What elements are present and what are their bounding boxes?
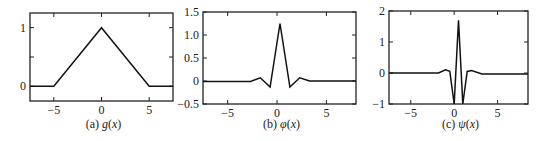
figure: −50501(a) g(x) −505−0.500.51.01.5(b) φ(x… bbox=[0, 0, 552, 141]
plot-frame bbox=[30, 13, 173, 101]
panel-c: −505−1012(c) ψ(x) bbox=[372, 4, 528, 131]
panel-caption: (a) g(x) bbox=[86, 117, 122, 131]
y-tick-label: 0 bbox=[20, 79, 26, 93]
series-line-c bbox=[389, 20, 528, 104]
x-tick-label: −5 bbox=[47, 103, 60, 117]
y-tick-label: −0.5 bbox=[177, 97, 199, 111]
y-tick-label: 1 bbox=[379, 35, 385, 49]
x-tick-label: 0 bbox=[99, 103, 105, 117]
y-tick-label: 1.5 bbox=[184, 5, 199, 19]
x-tick-label: −5 bbox=[404, 106, 417, 120]
y-tick-label: 2 bbox=[379, 4, 385, 18]
caption-paren-close: ) bbox=[296, 117, 300, 131]
x-tick-label: 5 bbox=[323, 106, 329, 120]
panel-a: −50501(a) g(x) bbox=[20, 13, 173, 131]
caption-prefix: (c) bbox=[442, 117, 458, 131]
y-tick-label: 0 bbox=[193, 74, 199, 88]
caption-paren-close: ) bbox=[117, 117, 121, 131]
series-line-a bbox=[30, 28, 173, 87]
series-line-b bbox=[203, 24, 356, 88]
caption-paren-close: ) bbox=[475, 117, 479, 131]
y-tick-label: 0 bbox=[379, 66, 385, 80]
x-tick-label: 5 bbox=[495, 106, 501, 120]
y-tick-label: 1.0 bbox=[184, 28, 199, 42]
panel-caption: (b) φ(x) bbox=[263, 117, 300, 131]
x-tick-label: −5 bbox=[221, 106, 234, 120]
x-tick-label: 5 bbox=[146, 103, 152, 117]
y-tick-label: 1 bbox=[20, 21, 26, 35]
y-tick-label: −1 bbox=[372, 97, 385, 111]
caption-prefix: (b) bbox=[263, 117, 280, 131]
panel-caption: (c) ψ(x) bbox=[442, 117, 479, 131]
panel-b: −505−0.500.51.01.5(b) φ(x) bbox=[177, 5, 356, 131]
y-tick-label: 0.5 bbox=[184, 51, 199, 65]
caption-prefix: (a) bbox=[86, 117, 102, 131]
